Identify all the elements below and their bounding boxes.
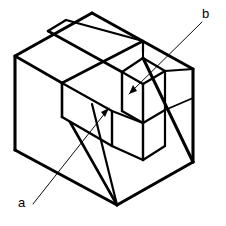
- block-outline-bottom-right-edge: [117, 162, 193, 205]
- center-post-right-edge: [143, 146, 165, 160]
- vee-groove-near-top-edge: [15, 56, 62, 83]
- front-bevel-upper-edge: [62, 83, 112, 111]
- right-face-upper-fold: [165, 69, 193, 71]
- right-face-long-slope: [143, 58, 193, 162]
- slot-floor-right-edge: [143, 110, 165, 123]
- isometric-block-drawing: [0, 0, 226, 226]
- vee-groove-far-rail: [48, 31, 122, 72]
- arrowhead-a-icon: [101, 108, 109, 117]
- slot-rim-back-left: [122, 72, 143, 84]
- right-face-lower-fold: [165, 98, 193, 110]
- front-bevel-slope-inner: [92, 104, 117, 205]
- leader-arrowheads: [101, 85, 137, 117]
- center-post-front-edge: [112, 146, 143, 160]
- technical-drawing-figure: a b: [0, 0, 226, 226]
- callout-label-a: a: [18, 196, 25, 209]
- slot-rim-top-left: [122, 58, 143, 72]
- vee-groove-upper-rail: [66, 20, 143, 41]
- arrowhead-b-icon: [129, 85, 137, 94]
- callout-label-b: b: [202, 7, 209, 20]
- block-body: [15, 13, 193, 205]
